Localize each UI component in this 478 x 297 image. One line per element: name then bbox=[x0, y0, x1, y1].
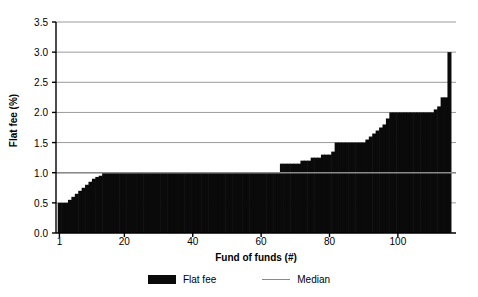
bar bbox=[65, 203, 69, 233]
bar bbox=[150, 173, 154, 233]
bar bbox=[359, 143, 363, 233]
bar bbox=[338, 143, 342, 233]
bar bbox=[447, 52, 451, 233]
bar bbox=[106, 173, 110, 233]
bar bbox=[280, 164, 284, 233]
bar bbox=[140, 173, 144, 233]
bar bbox=[365, 140, 369, 233]
y-tick-label: 1.0 bbox=[14, 167, 48, 178]
bar bbox=[348, 143, 352, 233]
bar bbox=[444, 97, 448, 233]
bar bbox=[318, 158, 322, 233]
bar bbox=[328, 155, 332, 233]
bar bbox=[164, 173, 168, 233]
x-tick-label: 20 bbox=[104, 236, 144, 247]
bar bbox=[136, 173, 140, 233]
bar bbox=[369, 137, 373, 233]
bar bbox=[85, 185, 89, 233]
bar bbox=[386, 118, 390, 233]
bar bbox=[92, 179, 96, 233]
bar bbox=[75, 194, 79, 233]
bar bbox=[273, 173, 277, 233]
y-tick-label: 2.0 bbox=[14, 107, 48, 118]
bar bbox=[167, 173, 171, 233]
x-axis-title: Fund of funds (#) bbox=[56, 252, 456, 263]
bar bbox=[143, 173, 147, 233]
bar bbox=[376, 131, 380, 233]
bar bbox=[242, 173, 246, 233]
bar bbox=[437, 106, 441, 233]
bar bbox=[297, 164, 301, 233]
x-tick-label: 100 bbox=[378, 236, 418, 247]
bar bbox=[133, 173, 137, 233]
bar bbox=[270, 173, 274, 233]
bar bbox=[324, 155, 328, 233]
bar bbox=[184, 173, 188, 233]
bar bbox=[259, 173, 263, 233]
bar bbox=[434, 109, 438, 233]
bar bbox=[88, 182, 92, 233]
bar bbox=[177, 173, 181, 233]
bar bbox=[345, 143, 349, 233]
bar bbox=[239, 173, 243, 233]
bar bbox=[300, 161, 304, 233]
legend-item-flat-fee: Flat fee bbox=[148, 274, 216, 285]
bar bbox=[82, 188, 86, 233]
bar bbox=[71, 197, 75, 233]
bar bbox=[283, 164, 287, 233]
bar bbox=[263, 173, 267, 233]
bar bbox=[99, 176, 103, 233]
bar bbox=[355, 143, 359, 233]
flat-fee-chart: Flat fee (%) 0.00.51.01.52.02.53.03.5 12… bbox=[0, 0, 478, 297]
bar bbox=[112, 173, 116, 233]
bar bbox=[153, 173, 157, 233]
bar bbox=[58, 203, 62, 233]
bar bbox=[95, 177, 99, 233]
legend-label-flat-fee: Flat fee bbox=[183, 274, 216, 285]
y-tick-label: 0.5 bbox=[14, 197, 48, 208]
chart-legend: Flat fee Median bbox=[0, 274, 478, 285]
bar bbox=[147, 173, 151, 233]
bar bbox=[441, 97, 445, 233]
bar bbox=[191, 173, 195, 233]
bar bbox=[160, 173, 164, 233]
bar bbox=[321, 155, 325, 233]
bar bbox=[123, 173, 127, 233]
bar bbox=[212, 173, 216, 233]
bar bbox=[205, 173, 209, 233]
bar bbox=[232, 173, 236, 233]
legend-item-median: Median bbox=[262, 274, 330, 285]
x-tick-label: 80 bbox=[310, 236, 350, 247]
bar bbox=[78, 191, 82, 233]
bar bbox=[201, 173, 205, 233]
bar bbox=[222, 173, 226, 233]
bar bbox=[174, 173, 178, 233]
bar bbox=[130, 173, 134, 233]
flat-fee-swatch-icon bbox=[148, 275, 176, 284]
bar bbox=[352, 143, 356, 233]
y-tick-label: 3.5 bbox=[14, 17, 48, 28]
bar bbox=[379, 128, 383, 234]
bar bbox=[287, 164, 291, 233]
bar bbox=[116, 173, 120, 233]
bar bbox=[304, 161, 308, 233]
bar bbox=[314, 158, 318, 233]
bar bbox=[229, 173, 233, 233]
bar bbox=[335, 143, 339, 233]
bar bbox=[235, 173, 239, 233]
bar bbox=[266, 173, 270, 233]
bar bbox=[171, 173, 175, 233]
bar bbox=[277, 173, 281, 233]
bar bbox=[249, 173, 253, 233]
bar bbox=[225, 173, 229, 233]
bar bbox=[119, 173, 123, 233]
bar bbox=[294, 164, 298, 233]
x-tick-label: 60 bbox=[241, 236, 281, 247]
bar bbox=[61, 203, 65, 233]
bar bbox=[256, 173, 260, 233]
x-tick-label: 1 bbox=[39, 236, 79, 247]
bar bbox=[68, 200, 72, 233]
bar bbox=[331, 152, 335, 233]
bar bbox=[218, 173, 222, 233]
bar bbox=[109, 173, 113, 233]
